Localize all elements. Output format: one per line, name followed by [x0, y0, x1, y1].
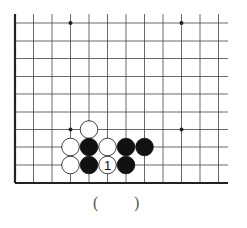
move-number-label: 1 [104, 158, 111, 173]
answer-open-paren: ( [93, 194, 98, 212]
black-stone [136, 138, 154, 156]
black-stone [80, 138, 98, 156]
star-point [69, 128, 73, 132]
black-stone [117, 156, 135, 174]
white-stone [62, 156, 80, 174]
black-stone [80, 156, 98, 174]
star-point [180, 21, 184, 25]
star-point [69, 21, 73, 25]
white-stone: 1 [99, 156, 117, 174]
black-stone [117, 138, 135, 156]
white-stone [80, 121, 98, 139]
answer-close-paren: ) [134, 194, 139, 212]
go-board: 1 [0, 0, 247, 228]
white-stone [62, 138, 80, 156]
white-stone [99, 138, 117, 156]
star-point [180, 128, 184, 132]
